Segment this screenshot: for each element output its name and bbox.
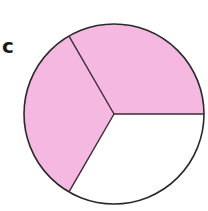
fraction-circle [0,0,208,211]
